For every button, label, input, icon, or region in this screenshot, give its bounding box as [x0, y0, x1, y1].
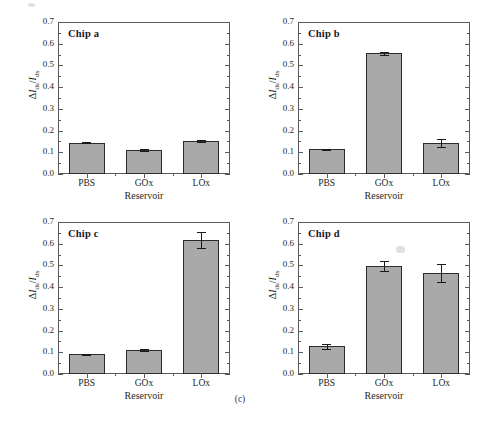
error-bar-cap-top: [197, 140, 206, 141]
y-tick-minor-right: [227, 163, 230, 164]
y-tick-minor: [298, 298, 301, 299]
y-tick-major-right: [465, 152, 470, 153]
y-tick-major-right: [465, 265, 470, 266]
y-tick-major: [58, 65, 63, 66]
y-tick-major: [298, 174, 303, 175]
y-tick-major: [58, 287, 63, 288]
x-tick-label: PBS: [297, 178, 357, 188]
y-tick-minor: [58, 233, 61, 234]
y-tick-minor-right: [467, 233, 470, 234]
bar: [69, 354, 105, 374]
y-tick-major-right: [225, 22, 230, 23]
bar: [69, 143, 105, 174]
y-tick-major: [298, 287, 303, 288]
bar: [126, 350, 162, 374]
error-bar-cap-bottom: [380, 55, 389, 56]
y-tick-minor-right: [227, 276, 230, 277]
y-tick-minor-right: [467, 76, 470, 77]
y-tick-minor: [58, 76, 61, 77]
y-tick-label: 0.3: [18, 303, 54, 313]
y-tick-major: [298, 22, 303, 23]
x-tick-label: GOx: [114, 178, 174, 188]
bar: [309, 149, 345, 174]
y-tick-major: [58, 265, 63, 266]
panel-chip-d: Chip dΔIds/Ids0.00.10.20.30.40.50.60.7PB…: [240, 202, 480, 402]
x-tick-minor: [115, 173, 116, 176]
scan-artifact-topleft: [28, 3, 35, 7]
y-tick-label: 0.6: [258, 238, 294, 248]
error-bar-cap-top: [380, 52, 389, 53]
error-bar-cap-bottom: [197, 248, 206, 249]
y-tick-major-right: [225, 352, 230, 353]
y-tick-major-right: [225, 331, 230, 332]
y-tick-minor-right: [227, 341, 230, 342]
y-tick-major: [58, 374, 63, 375]
bar: [183, 141, 219, 174]
y-tick-label: 0.7: [258, 216, 294, 226]
figure-subcaption: (c): [0, 394, 480, 404]
y-tick-major: [298, 44, 303, 45]
y-tick-label: 0.1: [18, 346, 54, 356]
y-tick-major-right: [465, 87, 470, 88]
y-tick-minor: [58, 33, 61, 34]
y-tick-minor-right: [467, 298, 470, 299]
y-tick-major-right: [225, 222, 230, 223]
bar: [366, 53, 402, 174]
y-tick-minor: [298, 363, 301, 364]
y-tick-major: [298, 87, 303, 88]
x-tick-label: GOx: [354, 378, 414, 388]
y-tick-minor: [58, 98, 61, 99]
y-tick-label: 0.4: [18, 81, 54, 91]
y-tick-label: 0.2: [18, 325, 54, 335]
y-tick-minor: [58, 276, 61, 277]
y-tick-major: [298, 352, 303, 353]
y-tick-minor: [58, 141, 61, 142]
y-tick-minor: [298, 55, 301, 56]
y-tick-label: 0.2: [18, 125, 54, 135]
y-tick-major-right: [465, 131, 470, 132]
y-tick-label: 0.5: [258, 59, 294, 69]
y-tick-minor-right: [467, 276, 470, 277]
y-tick-label: 0.3: [18, 103, 54, 113]
y-tick-label: 0.1: [258, 146, 294, 156]
y-tick-major-right: [225, 287, 230, 288]
y-tick-minor-right: [227, 255, 230, 256]
y-tick-label: 0.4: [18, 281, 54, 291]
y-tick-major: [298, 244, 303, 245]
y-tick-minor: [298, 98, 301, 99]
x-tick-minor: [355, 373, 356, 376]
y-tick-minor-right: [227, 298, 230, 299]
y-tick-minor-right: [467, 320, 470, 321]
x-tick-label: GOx: [354, 178, 414, 188]
error-bar-cap-bottom: [140, 151, 149, 152]
x-axis-title: Reservoir: [58, 190, 230, 201]
x-tick-label: LOx: [171, 178, 231, 188]
y-tick-minor: [298, 276, 301, 277]
y-tick-minor-right: [227, 98, 230, 99]
y-tick-major-right: [225, 131, 230, 132]
y-tick-minor-right: [467, 141, 470, 142]
y-tick-major-right: [465, 65, 470, 66]
bar: [183, 240, 219, 374]
error-bar-cap-bottom: [380, 271, 389, 272]
y-tick-major-right: [225, 309, 230, 310]
x-tick-label: PBS: [57, 378, 117, 388]
y-tick-major-right: [465, 287, 470, 288]
x-tick-minor: [173, 373, 174, 376]
panel-title: Chip b: [308, 28, 340, 39]
error-bar-cap-bottom: [82, 143, 91, 144]
y-tick-minor: [298, 255, 301, 256]
y-tick-major: [58, 174, 63, 175]
y-tick-major: [298, 152, 303, 153]
y-tick-major: [58, 152, 63, 153]
y-tick-label: 0.5: [18, 259, 54, 269]
error-bar-cap-bottom: [197, 142, 206, 143]
x-tick-minor: [173, 173, 174, 176]
y-tick-minor-right: [227, 76, 230, 77]
error-bar-cap-bottom: [140, 351, 149, 352]
panel-chip-a: Chip aΔIds/Ids0.00.10.20.30.40.50.60.7PB…: [0, 2, 240, 202]
error-bar-cap-bottom: [322, 150, 331, 151]
y-tick-minor: [58, 320, 61, 321]
y-tick-minor-right: [467, 98, 470, 99]
y-tick-minor-right: [227, 233, 230, 234]
